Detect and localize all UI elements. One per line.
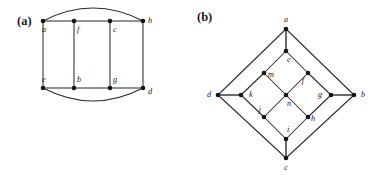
vertex-label-a: a [42, 25, 46, 34]
vertex-label-m: m [268, 70, 274, 79]
edge-a-h [43, 8, 143, 21]
edge-f-n [286, 73, 308, 95]
vertex-e [41, 86, 46, 91]
vertex-m [262, 71, 267, 76]
graph-b: abcdegikmfhjn [189, 0, 378, 175]
vertex-label-i: i [287, 125, 290, 134]
vertex-label-k: k [249, 90, 253, 99]
vertex-label-d: d [207, 90, 212, 99]
vertex-label-d: d [148, 87, 153, 96]
vertex-d [141, 86, 146, 91]
vertex-f [72, 19, 77, 24]
vertex-n [284, 93, 289, 98]
edge-b-c [286, 95, 354, 158]
vertex-g [329, 93, 334, 98]
vertex-label-n: n [287, 99, 291, 108]
edge-h-i [286, 117, 308, 139]
vertex-e [284, 49, 289, 54]
figure-root: (a) afchebgd (b) abcdegikmfhjn [0, 0, 378, 175]
vertex-label-f: f [302, 76, 306, 85]
vertex-label-f: f [77, 25, 81, 34]
vertex-label-h: h [311, 114, 315, 123]
vertex-label-b: b [361, 90, 365, 99]
vertex-g [108, 86, 113, 91]
edge-e-d [43, 88, 143, 101]
vertex-f [306, 71, 311, 76]
vertex-b [72, 86, 77, 91]
vertex-label-e: e [287, 55, 291, 64]
graph-a-labels: afchebgd [42, 16, 153, 96]
graph-a-edges [43, 8, 143, 101]
vertex-i [284, 137, 289, 142]
vertex-b [352, 93, 357, 98]
vertex-label-h: h [148, 16, 152, 25]
vertex-label-a: a [284, 15, 288, 24]
vertex-d [216, 93, 221, 98]
vertex-c [284, 156, 289, 161]
vertex-label-b: b [77, 75, 81, 84]
vertex-a [41, 19, 46, 24]
edge-i-j [264, 117, 286, 139]
vertex-label-g: g [318, 90, 322, 99]
vertex-label-c: c [113, 25, 117, 34]
edge-c-d [218, 95, 286, 158]
panel-a: (a) afchebgd [0, 0, 189, 175]
vertex-label-e: e [42, 75, 46, 84]
vertex-c [108, 19, 113, 24]
panel-b: (b) abcdegikmfhjn [189, 0, 378, 175]
graph-a: afchebgd [0, 0, 189, 175]
vertex-h [306, 115, 311, 120]
graph-a-vertices [41, 19, 146, 91]
vertex-k [239, 93, 244, 98]
vertex-label-j: j [258, 105, 262, 114]
vertex-j [262, 115, 267, 120]
vertex-h [141, 19, 146, 24]
edge-j-n [264, 95, 286, 117]
vertex-a [284, 27, 289, 32]
vertex-label-g: g [113, 75, 117, 84]
vertex-label-c: c [284, 163, 288, 172]
